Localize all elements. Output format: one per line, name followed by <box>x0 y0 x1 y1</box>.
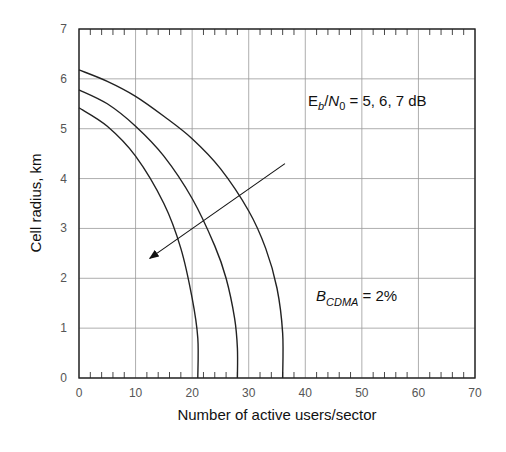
y-tick-label: 5 <box>60 122 67 136</box>
y-tick-label: 6 <box>60 72 67 86</box>
y-tick-label: 1 <box>60 321 67 335</box>
x-tick-label: 0 <box>76 386 83 400</box>
x-tick-label: 60 <box>412 386 426 400</box>
ebn0-annotation: Eb/N0 = 5, 6, 7 dB <box>308 92 427 112</box>
x-tick-label: 70 <box>468 386 482 400</box>
chart: 010203040506070 01234567 Cell radius, km… <box>0 0 506 452</box>
curves <box>79 70 283 378</box>
curve <box>79 90 238 378</box>
y-tick-label: 0 <box>60 371 67 385</box>
curve <box>79 108 198 378</box>
x-axis-label: Number of active users/sector <box>177 406 376 423</box>
x-tick-labels: 010203040506070 <box>76 386 482 400</box>
y-tick-label: 2 <box>60 271 67 285</box>
y-tick-label: 7 <box>60 22 67 36</box>
bcdma-annotation: BCDMA = 2% <box>316 287 397 308</box>
x-tick-label: 30 <box>242 386 256 400</box>
curve <box>79 70 283 378</box>
x-tick-label: 50 <box>355 386 369 400</box>
y-tick-label: 3 <box>60 221 67 235</box>
x-tick-label: 20 <box>185 386 199 400</box>
y-tick-labels: 01234567 <box>60 22 67 385</box>
x-tick-label: 10 <box>129 386 143 400</box>
y-tick-label: 4 <box>60 172 67 186</box>
minor-ticks <box>90 29 463 378</box>
grid <box>79 29 475 378</box>
y-axis-label: Cell radius, km <box>27 153 44 252</box>
x-tick-label: 40 <box>299 386 313 400</box>
plot-frame <box>79 29 475 378</box>
